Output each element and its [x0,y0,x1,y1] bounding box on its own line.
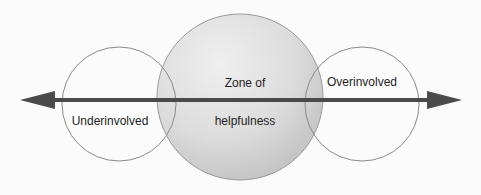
left-arrowhead-icon [20,91,55,109]
overinvolved-label: Overinvolved [327,76,397,88]
zone-label-line1: Zone of [225,77,266,89]
helpfulness-continuum-diagram: Zone of helpfulness Underinvolved Overin… [0,0,481,195]
zone-of-helpfulness-circle [157,14,323,180]
right-arrowhead-icon [427,91,462,109]
zone-label-line2: helpfulness [215,115,276,127]
diagram-graphics [0,0,481,195]
arrow-shaft [50,98,430,102]
underinvolved-label: Underinvolved [72,115,149,127]
